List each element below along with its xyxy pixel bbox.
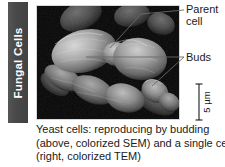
callout-parent-cell-line2: cell — [186, 16, 218, 28]
callout-buds: Buds — [186, 52, 211, 64]
caption-line-2: (above, colorized SEM) and a single cell — [36, 137, 222, 151]
scale-bar: 5 µm — [194, 82, 224, 122]
category-tab-label: Fungal Cells — [12, 27, 24, 98]
callout-parent-cell-line1: Parent — [186, 4, 218, 16]
callout-buds-line1: Buds — [186, 52, 211, 64]
yeast-cells-sem-micrograph — [36, 5, 180, 120]
micrograph-artwork — [37, 6, 179, 119]
scale-bar-label: 5 µm — [201, 91, 212, 113]
category-tab-fungal-cells: Fungal Cells — [8, 2, 28, 123]
callout-parent-cell: Parent cell — [186, 4, 218, 27]
caption-line-1: Yeast cells: reproducing by budding — [36, 123, 222, 137]
caption-line-3: (right, colorized TEM) — [36, 150, 222, 164]
figure-caption: Yeast cells: reproducing by budding (abo… — [36, 123, 222, 164]
fungal-cells-figure: Fungal Cells — [0, 0, 225, 167]
